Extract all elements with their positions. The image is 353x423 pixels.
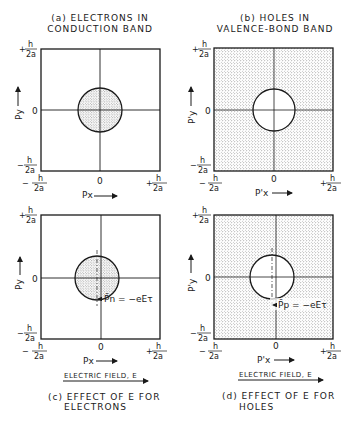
panel-b: (b) HOLES IN VALENCE-BOND BAND + h 2a 0 … [187,13,341,198]
panel-c-ytick-top-sign: + [19,211,26,220]
panel-a-xtick-right-sign: + [146,179,153,188]
panel-b-xtick-right-sign: + [320,179,327,188]
panel-c-ytick-bottom-den: 2a [25,334,35,343]
panel-d-xtick-left-sign: − [199,347,206,356]
panel-d-field-label: ELECTRIC FIELD, E [239,371,312,379]
panel-b-ytick-top-sign: + [192,45,199,54]
panel-a-xtick-zero: 0 [97,176,103,186]
panel-c: P̄n = −eEτ + h 2a 0 − h 2a − h 2a 0 + h … [14,206,167,412]
panel-d-xtick-left-num: h [213,342,218,351]
panel-a-xtick-right-num: h [156,174,161,183]
panel-d-ytick-top-den: 2a [199,216,209,225]
panel-d-xtick-right-den: 2a [327,352,337,361]
panel-c-xtick-left-num: h [38,342,43,351]
panel-d-ytick-zero: 0 [205,273,211,283]
panel-c-ytick-bottom-sign: − [17,329,24,338]
panel-d-ytick-bottom-sign: − [190,329,197,338]
panel-c-xtick-right-sign: + [146,347,153,356]
panel-a-y-label: Py [14,109,24,120]
panel-c-shift-label: P̄n = −eEτ [104,293,153,304]
panel-c-ytick-zero: 0 [32,274,38,284]
panel-c-caption-line1: (c) EFFECT OF E FOR [48,392,160,402]
panel-b-ytick-top-num: h [202,40,207,49]
panel-c-xtick-left-den: 2a [34,352,44,361]
panel-a-xtick-left-sign: − [22,179,29,188]
panel-a-xtick-left-den: 2a [34,184,44,193]
panel-c-ytick-bottom-num: h [27,324,32,333]
panel-b-ytick-bottom-num: h [200,156,205,165]
panel-b-y-label: P'y [187,110,197,124]
panel-a-xtick-right-den: 2a [153,184,163,193]
panel-c-ytick-top-den: 2a [26,216,36,225]
panel-c-xtick-left-sign: − [22,347,29,356]
panel-d-xtick-right-sign: + [320,347,327,356]
panel-a-ytick-zero: 0 [32,106,38,116]
panel-a-ytick-top-num: h [28,40,33,49]
panel-a-electron-sphere [78,88,122,132]
panel-c-field-label: ELECTRIC FIELD, E [64,372,137,380]
panel-d-x-label: P'x [257,355,271,365]
panel-c-ytick-top-num: h [28,206,33,215]
panel-a-ytick-top-sign: + [19,45,26,54]
panel-c-xtick-zero: 0 [98,342,104,352]
panel-a: (a) ELECTRONS IN CONDUCTION BAND + h 2a … [14,13,167,200]
panel-d-shift-label: P̄p = −eEτ [278,299,327,310]
panel-d-y-label: P'y [187,278,197,292]
panel-c-xtick-right-den: 2a [153,352,163,361]
panel-c-x-label: Px [83,356,94,366]
panel-a-ytick-bottom-sign: − [17,161,24,170]
panel-d-xtick-left-den: 2a [209,352,219,361]
panel-d-xtick-zero: 0 [273,341,279,351]
panel-d-ytick-top-sign: + [192,211,199,220]
panel-d-ytick-bottom-den: 2a [198,334,208,343]
panel-b-xtick-left-den: 2a [209,184,219,193]
panel-b-ytick-top-den: 2a [199,50,209,59]
panel-b-caption-line2: VALENCE-BOND BAND [217,24,334,34]
panel-a-x-label: Px [82,190,93,200]
momentum-space-diagram: (a) ELECTRONS IN CONDUCTION BAND + h 2a … [0,0,353,423]
panel-b-caption-line1: (b) HOLES IN [240,13,310,23]
panel-a-ytick-top-den: 2a [26,50,36,59]
panel-c-y-label: Py [14,279,24,290]
panel-d-ytick-bottom-num: h [200,324,205,333]
panel-c-caption-line2: ELECTRONS [64,402,127,412]
panel-a-ytick-bottom-num: h [27,156,32,165]
panel-d-ytick-top-num: h [202,206,207,215]
panel-b-ytick-bottom-sign: − [190,161,197,170]
panel-d-caption-line1: (d) EFFECT OF E FOR [222,391,335,401]
panel-b-xtick-right-num: h [330,174,335,183]
panel-a-xtick-left-num: h [38,174,43,183]
panel-b-xtick-right-den: 2a [327,184,337,193]
panel-a-ytick-bottom-den: 2a [25,166,35,175]
panel-b-xtick-left-sign: − [199,179,206,188]
panel-b-ytick-bottom-den: 2a [198,166,208,175]
panel-d: P̄p = −eEτ + h 2a 0 − h 2a − h 2a 0 + h … [187,206,341,412]
panel-c-xtick-right-num: h [156,342,161,351]
panel-b-xtick-zero: 0 [271,174,277,184]
panel-a-caption-line1: (a) ELECTRONS IN [51,13,149,23]
panel-b-x-label: P'x [255,188,269,198]
panel-b-xtick-left-num: h [213,174,218,183]
panel-a-caption-line2: CONDUCTION BAND [47,24,153,34]
panel-d-caption-line2: HOLES [239,402,274,412]
panel-d-xtick-right-num: h [330,342,335,351]
panel-b-ytick-zero: 0 [205,106,211,116]
